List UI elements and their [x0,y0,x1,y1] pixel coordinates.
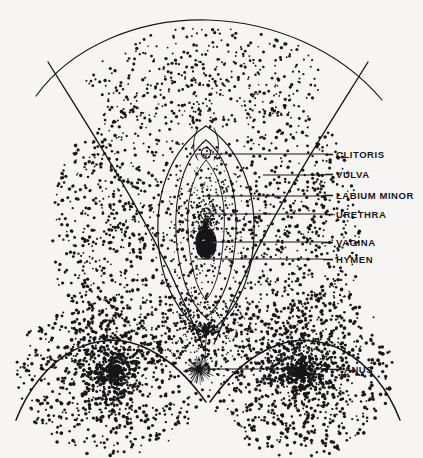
stipple-right-labium-majus [207,104,361,361]
stipple-mons-pubis [85,27,319,129]
diagram-page: CLITORIS VULVA LABIUM MINOR URETHRA VAGI… [0,0,423,458]
anatomy-illustration [0,0,423,458]
leader-lines [196,154,341,370]
label-urethra[interactable]: URETHRA [336,210,386,220]
label-clitoris[interactable]: CLITORIS [336,150,385,160]
label-labium-minor[interactable]: LABIUM MINOR [336,191,414,201]
feature-vaginal-opening [196,227,217,259]
label-vulva[interactable]: VULVA [336,170,370,180]
label-hymen[interactable]: HYMEN [336,255,373,265]
label-vagina[interactable]: VAGINA [336,238,376,248]
contour-mons-arc [36,20,382,100]
label-anus[interactable]: ANUS [344,365,373,375]
